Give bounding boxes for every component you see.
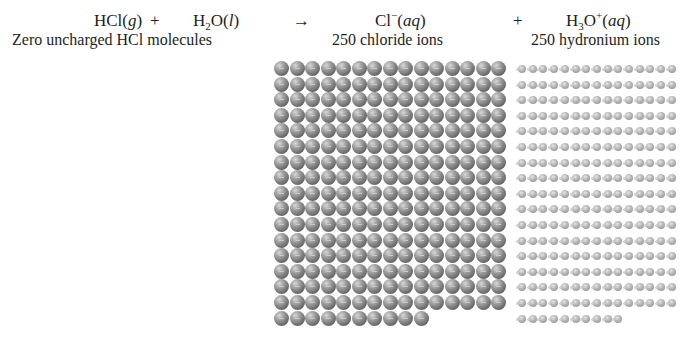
chloride-ion-icon	[290, 186, 305, 201]
hydronium-ion-icon	[539, 65, 547, 73]
reactant-hcl: HCl(g)	[94, 11, 142, 31]
hydronium-ion-icon	[593, 252, 601, 260]
hydronium-ion-icon	[518, 283, 526, 291]
chloride-ion-icon	[491, 186, 506, 201]
hydronium-ion-icon	[561, 112, 569, 120]
hydronium-ion-icon	[646, 299, 654, 307]
hydronium-ion-icon	[539, 81, 547, 89]
chloride-ion-icon	[290, 155, 305, 170]
reaction-arrow: →	[293, 11, 310, 31]
chloride-ion-icon	[398, 217, 413, 232]
chloride-ion-icon	[321, 155, 336, 170]
chloride-ion-icon	[321, 311, 336, 326]
chloride-ion-icon	[414, 61, 429, 76]
hydronium-ion-icon	[550, 65, 558, 73]
chloride-ion-icon	[429, 201, 444, 216]
chloride-ion-icon	[274, 201, 289, 216]
chloride-ion-icon	[383, 186, 398, 201]
hydronium-ion-icon	[593, 315, 601, 323]
hydronium-ion-icon	[604, 65, 612, 73]
hydronium-ion-icon	[593, 190, 601, 198]
hydronium-ion-icon	[657, 81, 665, 89]
chloride-ion-icon	[414, 264, 429, 279]
hydronium-ion-icon	[646, 174, 654, 182]
chloride-ion-icon	[445, 186, 460, 201]
chloride-ion-icon	[305, 108, 320, 123]
hydronium-ion-icon	[604, 159, 612, 167]
chloride-ion-icon	[429, 217, 444, 232]
hydronium-ion-icon	[593, 283, 601, 291]
hydronium-ion-icon	[529, 65, 537, 73]
chloride-ion-icon	[476, 61, 491, 76]
chloride-ion-icon	[445, 233, 460, 248]
hydronium-ion-icon	[625, 81, 633, 89]
chloride-ion-icon	[274, 61, 289, 76]
chloride-ion-icon	[383, 77, 398, 92]
hydronium-ion-icon	[593, 237, 601, 245]
hydronium-ion-icon	[657, 159, 665, 167]
hydronium-ion-icon	[561, 252, 569, 260]
hydronium-ion-icon	[668, 205, 676, 213]
hydronium-ion-icon	[529, 252, 537, 260]
hydronium-ion-icon	[529, 143, 537, 151]
hydronium-ion-icon	[593, 96, 601, 104]
hydronium-ion-icon	[529, 268, 537, 276]
chloride-ion-icon	[290, 201, 305, 216]
hydronium-ion-icon	[561, 237, 569, 245]
chloride-ion-icon	[290, 108, 305, 123]
hydronium-ion-icon	[625, 65, 633, 73]
chloride-ion-icon	[398, 186, 413, 201]
hydronium-ion-icon	[625, 237, 633, 245]
hydronium-ion-icon	[668, 159, 676, 167]
chloride-ion-icon	[398, 264, 413, 279]
chloride-ion-icon	[491, 155, 506, 170]
hydronium-ion-icon	[572, 65, 580, 73]
chloride-ion-icon	[445, 295, 460, 310]
chloride-ion-icon	[398, 155, 413, 170]
chloride-ion-icon	[429, 92, 444, 107]
chloride-ion-icon	[367, 61, 382, 76]
hydronium-ion-icon	[668, 127, 676, 135]
chloride-ion-icon	[491, 279, 506, 294]
chloride-ion-icon	[383, 108, 398, 123]
hydronium-ion-icon	[572, 205, 580, 213]
chloride-ion-icon	[352, 311, 367, 326]
chloride-ion-icon	[476, 295, 491, 310]
hydronium-charge: +	[596, 9, 602, 21]
hydronium-ion-icon	[593, 143, 601, 151]
chloride-ion-icon	[274, 217, 289, 232]
chloride-ion-icon	[414, 170, 429, 185]
chloride-ion-icon	[352, 77, 367, 92]
chloride-ion-icon	[367, 123, 382, 138]
hydronium-ion-icon	[529, 205, 537, 213]
chloride-ion-icon	[367, 248, 382, 263]
hydronium-ion-icon	[539, 127, 547, 135]
chloride-ion-icon	[460, 139, 475, 154]
hydronium-ion-icon	[668, 174, 676, 182]
hydronium-ion-icon	[636, 221, 644, 229]
chloride-ion-icon	[429, 186, 444, 201]
hydronium-ion-icon	[550, 81, 558, 89]
hydronium-ion-icon	[604, 143, 612, 151]
hydronium-ion-icon	[539, 96, 547, 104]
hydronium-ion-icon	[518, 112, 526, 120]
hydronium-ion-icon	[593, 299, 601, 307]
chloride-ion-icon	[476, 279, 491, 294]
chloride-ion-icon	[321, 248, 336, 263]
hydronium-ion-icon	[529, 127, 537, 135]
chloride-ion-icon	[460, 61, 475, 76]
chloride-ion-icon	[414, 248, 429, 263]
hydronium-ion-icon	[668, 299, 676, 307]
hydronium-ion-icon	[604, 190, 612, 198]
chloride-ion-icon	[336, 217, 351, 232]
hydronium-ion-icon	[646, 221, 654, 229]
chloride-ion-icon	[321, 170, 336, 185]
chloride-ion-icon	[321, 139, 336, 154]
chloride-ion-icon	[305, 92, 320, 107]
hydronium-ion-icon	[604, 315, 612, 323]
chloride-ion-icon	[460, 186, 475, 201]
chloride-ion-icon	[414, 186, 429, 201]
hydronium-ion-icon	[636, 190, 644, 198]
chloride-ion-icon	[383, 123, 398, 138]
chloride-ion-icon	[274, 170, 289, 185]
